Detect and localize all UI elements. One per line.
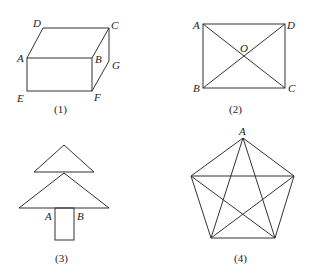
- star-line-4: [191, 176, 275, 238]
- caption-3: (3): [55, 252, 68, 265]
- star-line-2: [243, 138, 275, 238]
- top-triangle: [34, 145, 94, 172]
- label-G: G: [112, 59, 120, 71]
- label-C: C: [288, 82, 296, 94]
- label-E: E: [16, 92, 24, 104]
- label-A: A: [238, 125, 246, 137]
- trunk-rectangle: [55, 208, 74, 240]
- label-B: B: [95, 53, 102, 65]
- figure-4-pentagon: A (4): [191, 125, 294, 265]
- figure-2-rectangle: A D O B C (2): [192, 19, 296, 116]
- label-C: C: [111, 19, 119, 31]
- edge-GF: [92, 61, 109, 91]
- label-B: B: [193, 82, 200, 94]
- label-D: D: [32, 17, 41, 29]
- star-line-1: [211, 138, 243, 238]
- figure-1-prism: D C A B G E F (1): [16, 17, 120, 116]
- figure-3-tree: A B (3): [19, 145, 109, 265]
- figures-canvas: D C A B G E F (1) A D O B C (2) A B (3) …: [0, 0, 310, 273]
- bottom-triangle: [19, 173, 109, 208]
- label-A: A: [192, 19, 200, 31]
- label-A: A: [44, 210, 52, 222]
- star-line-5: [211, 176, 294, 238]
- prism-front-face: [27, 58, 92, 91]
- edge-AD: [27, 28, 43, 58]
- label-F: F: [93, 91, 101, 103]
- label-B: B: [77, 210, 84, 222]
- caption-4: (4): [234, 252, 247, 265]
- caption-2: (2): [229, 103, 242, 116]
- label-A: A: [16, 52, 24, 64]
- label-D: D: [286, 19, 295, 31]
- caption-1: (1): [54, 103, 67, 116]
- label-O: O: [240, 42, 248, 54]
